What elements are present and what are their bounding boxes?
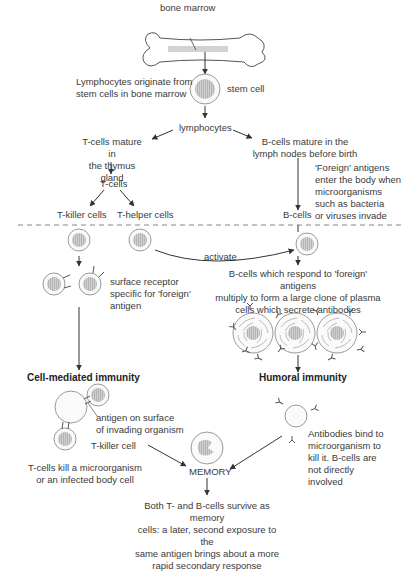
t-killer-cells-label: T-killer cells (57, 209, 107, 221)
antigen-on-surface-label: antigen on surface of invading organism (96, 412, 184, 436)
t-helper-cells-label: T-helper cells (117, 209, 174, 221)
b-cells-respond-label: B-cells which respond to 'foreign' antig… (212, 268, 384, 316)
lymphocytes-label: lymphocytes (179, 122, 232, 134)
cell-mediated-immunity-label: Cell-mediated immunity (27, 372, 140, 384)
t-cells-mature-label: T-cells mature in the thymus gland (78, 136, 146, 184)
lymphocytes-origin-label: Lymphocytes originate from stem cells in… (76, 76, 192, 100)
activate-label: activate (204, 251, 237, 263)
humoral-immunity-label: Humoral immunity (259, 372, 347, 384)
t-cells-label: T-cells (100, 178, 127, 190)
bone-marrow-label: bone marrow (160, 2, 215, 14)
foreign-antigens-enter-label: 'Foreign' antigens enter the body when m… (315, 162, 401, 222)
stem-cell-label: stem cell (227, 83, 264, 95)
b-cells-label: B-cells (283, 209, 312, 221)
bone-illustration (143, 33, 265, 67)
t-killer-cell-label: T-killer cell (91, 440, 136, 452)
memory-label: MEMORY (189, 466, 232, 478)
stem-cell (190, 74, 220, 104)
memory-cell (191, 432, 223, 464)
b-cells-mature-label: B-cells mature in the lymph nodes before… (250, 136, 360, 160)
surface-receptor-label: surface receptor specific for 'foreign' … (110, 276, 191, 312)
memory-description-label: Both T- and B-cells survive as memory ce… (132, 500, 282, 572)
antibodies-bind-label: Antibodies bind to microorganism to kill… (308, 428, 384, 488)
t-cells-kill-label: T-cells kill a microorganism or an infec… (20, 462, 150, 486)
